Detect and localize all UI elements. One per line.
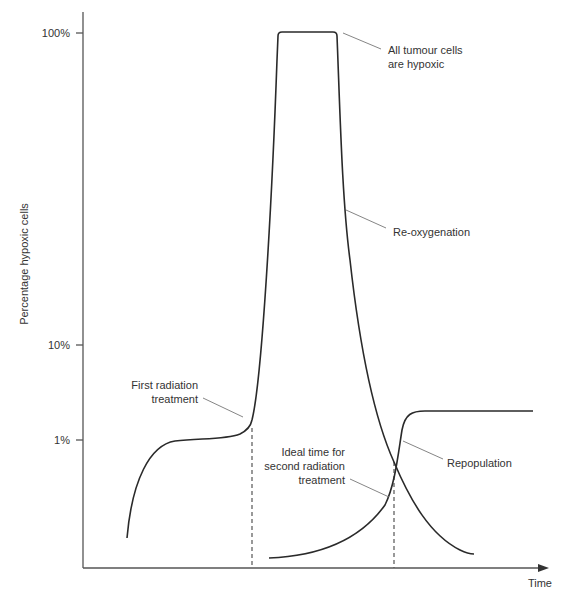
tick-label-100: 100% xyxy=(42,27,70,39)
x-axis-label: Time xyxy=(528,577,552,589)
tick-label-1: 1% xyxy=(54,434,70,446)
annotation-all-hypoxic-2: are hypoxic xyxy=(388,58,445,70)
reoxygenation-curve xyxy=(252,32,474,554)
y-axis-label: Percentage hypoxic cells xyxy=(18,203,30,325)
annotation-repopulation: Repopulation xyxy=(447,457,512,469)
leader-first-radiation xyxy=(203,398,243,417)
annotation-ideal-time-2: second radiation xyxy=(264,460,345,472)
annotation-reoxygenation: Re-oxygenation xyxy=(393,226,470,238)
initial-hypoxic-curve xyxy=(127,420,252,538)
leader-reoxygenation xyxy=(346,210,386,228)
leader-all-hypoxic xyxy=(343,33,381,49)
annotation-ideal-time-3: treatment xyxy=(299,474,345,486)
hypoxia-chart: 100% 10% 1% Percentage hypoxic cells Tim… xyxy=(0,0,570,597)
annotation-all-hypoxic-1: All tumour cells xyxy=(388,44,463,56)
tick-label-10: 10% xyxy=(48,339,70,351)
leader-ideal-time xyxy=(350,479,389,497)
x-axis-arrow-icon xyxy=(538,564,549,572)
annotation-first-radiation-2: treatment xyxy=(152,393,198,405)
annotation-first-radiation-1: First radiation xyxy=(131,379,198,391)
leader-repopulation xyxy=(403,441,443,459)
annotation-ideal-time-1: Ideal time for xyxy=(281,446,345,458)
